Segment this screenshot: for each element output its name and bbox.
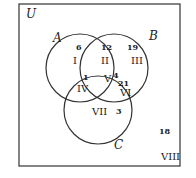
region-i-label: I <box>73 55 77 66</box>
region-viii-count: 18 <box>159 126 171 136</box>
set-a-label: A <box>52 31 62 45</box>
region-iii-label: III <box>131 55 143 66</box>
venn-svg: U A B C 6 I 12 II 19 III 1 IV V 4 21 VI … <box>0 0 196 178</box>
region-iii-count: 19 <box>127 42 139 52</box>
region-viii-label: VIII <box>160 151 180 162</box>
region-ii-count: 12 <box>101 42 112 52</box>
venn-diagram: U A B C 6 I 12 II 19 III 1 IV V 4 21 VI … <box>0 0 196 178</box>
set-b-label: B <box>148 29 158 43</box>
region-iv-label: IV <box>77 83 89 94</box>
universe-label: U <box>26 7 37 21</box>
region-i-count: 6 <box>76 42 82 52</box>
region-iv-count: 1 <box>83 72 89 82</box>
region-ii-label: II <box>101 55 109 66</box>
region-vii-label: VII <box>91 106 107 117</box>
region-vii-count: 3 <box>116 106 122 116</box>
region-v-label: V <box>103 73 112 84</box>
region-vi-label: VI <box>119 87 131 98</box>
set-c-label: C <box>114 138 123 152</box>
